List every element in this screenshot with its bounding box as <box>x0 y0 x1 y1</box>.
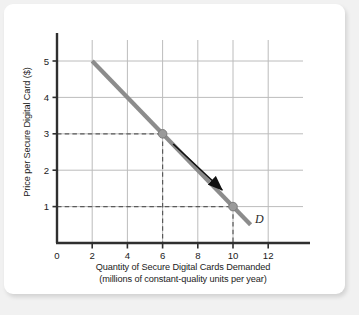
y-tick-label-4: 4 <box>33 92 49 103</box>
point-marker-a <box>158 130 167 139</box>
x-tick-label-6: 6 <box>153 250 173 261</box>
x-axis-title: Quantity of Secure Digital Cards Demande… <box>57 261 309 286</box>
y-tick-label-5: 5 <box>33 56 49 67</box>
grid-vertical <box>92 40 268 243</box>
y-axis-title: Price per Secure Digital Card ($) <box>22 32 34 232</box>
y-tick-label-2: 2 <box>33 165 49 176</box>
x-axis-title-line1: Quantity of Secure Digital Cards Demande… <box>57 261 309 273</box>
x-tick-label-0: 0 <box>47 250 67 261</box>
demand-curve-label: D <box>255 212 264 227</box>
y-tick-label-1: 1 <box>33 201 49 212</box>
x-axis-title-line2: (millions of constant-quality units per … <box>57 273 309 285</box>
y-tick-label-3: 3 <box>33 128 49 139</box>
point-marker-b <box>229 202 238 211</box>
grid-horizontal <box>57 61 303 207</box>
x-tick-label-12: 12 <box>258 250 278 261</box>
demand-curve-line <box>92 61 250 225</box>
x-tick-label-2: 2 <box>82 250 102 261</box>
page-root: 1 2 3 4 5 0 2 4 6 8 10 12 D Price per Se… <box>0 0 359 315</box>
x-tick-label-10: 10 <box>223 250 243 261</box>
guide-lines <box>57 134 233 243</box>
x-tick-label-4: 4 <box>117 250 137 261</box>
x-tick-label-8: 8 <box>188 250 208 261</box>
